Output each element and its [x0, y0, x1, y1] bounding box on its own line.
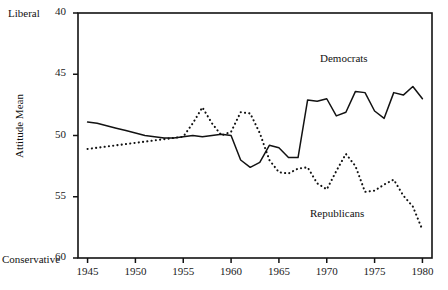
- series-annotation-democrats: Democrats: [320, 52, 368, 64]
- x-tick-label: 1965: [259, 265, 299, 277]
- y-axis-title: Attitude Mean: [13, 81, 25, 171]
- chart-plot-svg: [0, 0, 448, 290]
- x-tick-label: 1970: [307, 265, 347, 277]
- chart-figure: Liberal Conservative Attitude Mean 60555…: [0, 0, 448, 290]
- plot-frame: [78, 13, 432, 258]
- plot-border: [78, 13, 432, 258]
- y-tick-label: 45: [44, 66, 66, 78]
- x-tick-label: 1945: [68, 265, 108, 277]
- x-tick-label: 1975: [355, 265, 395, 277]
- y-tick-label: 55: [44, 189, 66, 201]
- y-tick-label: 50: [44, 128, 66, 140]
- x-tick-label: 1950: [115, 265, 155, 277]
- y-tick-label: 60: [44, 250, 66, 262]
- y-axis-top-pole-label: Liberal: [8, 7, 40, 19]
- x-tick-label: 1980: [402, 265, 442, 277]
- y-tick-label: 40: [44, 5, 66, 17]
- series-line-democrats: [88, 87, 423, 168]
- x-tick-label: 1955: [163, 265, 203, 277]
- series-line-republicans: [88, 107, 423, 230]
- x-tick-label: 1960: [211, 265, 251, 277]
- series-annotation-republicans: Republicans: [310, 207, 364, 219]
